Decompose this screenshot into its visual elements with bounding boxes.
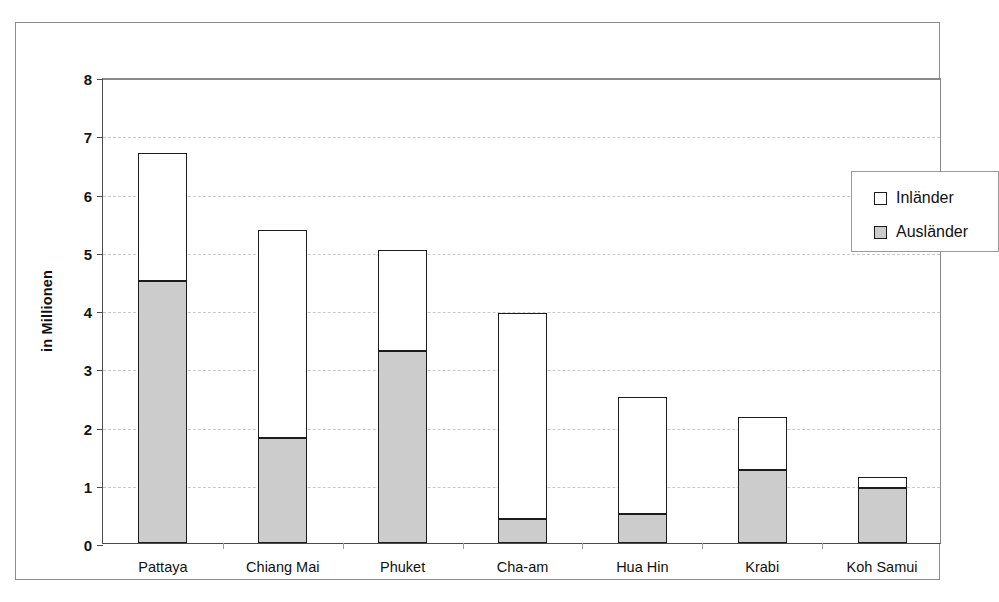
y-axis-tick [97, 196, 103, 197]
x-axis-label: Hua Hin [616, 560, 668, 575]
y-axis-tick-label: 0 [84, 538, 92, 553]
bar-koh-samui [858, 477, 907, 543]
bar-chiang-mai [258, 230, 307, 543]
y-axis-tick [97, 79, 103, 80]
bar-segment-auslaender [618, 514, 667, 543]
y-axis-title: in Millionen [39, 270, 55, 352]
bar-segment-inlaender [498, 313, 547, 519]
x-axis-tick [582, 543, 583, 549]
bar-segment-auslaender [498, 519, 547, 543]
x-axis-label: Krabi [745, 560, 779, 575]
bar-segment-auslaender [738, 470, 787, 543]
y-axis-tick [97, 254, 103, 255]
bar-cha-am [498, 313, 547, 543]
y-axis-tick [97, 545, 103, 546]
bar-segment-auslaender [858, 488, 907, 543]
gridline [103, 79, 940, 80]
gridline [103, 196, 940, 197]
plot-area: 012345678 PattayaChiang MaiPhuketCha-amH… [102, 78, 941, 544]
figure-frame: in Millionen 012345678 PattayaChiang Mai… [15, 22, 940, 580]
x-axis-label: Chiang Mai [246, 560, 319, 575]
y-axis-tick-label: 3 [84, 363, 92, 378]
bar-pattaya [138, 153, 187, 543]
bar-krabi [738, 417, 787, 543]
y-axis-tick [97, 429, 103, 430]
x-axis-label: Phuket [380, 560, 425, 575]
x-axis-tick [223, 543, 224, 549]
y-axis-tick-label: 1 [84, 479, 92, 494]
legend-label-auslaender: Ausländer [896, 224, 968, 240]
y-axis-tick-label: 7 [84, 130, 92, 145]
bar-segment-inlaender [378, 250, 427, 351]
y-axis-tick-label: 6 [84, 188, 92, 203]
bar-segment-auslaender [138, 281, 187, 543]
x-axis-label: Pattaya [138, 560, 187, 575]
bar-segment-inlaender [258, 230, 307, 439]
bar-segment-inlaender [738, 417, 787, 471]
y-axis-tick-label: 8 [84, 72, 92, 87]
x-axis-tick [822, 543, 823, 549]
chart-legend: Inländer Ausländer [851, 171, 999, 252]
bar-segment-auslaender [258, 438, 307, 543]
y-axis-tick-label: 2 [84, 421, 92, 436]
y-axis-tick [97, 312, 103, 313]
legend-item-auslaender: Ausländer [874, 218, 998, 246]
legend-item-inlaender: Inländer [874, 184, 998, 212]
y-axis-tick [97, 137, 103, 138]
legend-swatch-auslaender-icon [874, 226, 887, 239]
bar-segment-inlaender [138, 153, 187, 281]
y-axis-tick [97, 370, 103, 371]
x-axis-label: Koh Samui [847, 560, 918, 575]
x-axis-tick [343, 543, 344, 549]
x-axis-tick [702, 543, 703, 549]
x-axis-tick [463, 543, 464, 549]
bar-phuket [378, 250, 427, 543]
bar-segment-auslaender [378, 351, 427, 543]
y-axis-tick-label: 4 [84, 305, 92, 320]
x-axis-label: Cha-am [497, 560, 549, 575]
gridline [103, 137, 940, 138]
y-axis-tick-label: 5 [84, 246, 92, 261]
legend-label-inlaender: Inländer [896, 190, 954, 206]
gridline [103, 254, 940, 255]
bar-hua-hin [618, 397, 667, 543]
legend-swatch-inlaender-icon [874, 192, 887, 205]
bar-segment-inlaender [858, 477, 907, 487]
y-axis-tick [97, 487, 103, 488]
bar-segment-inlaender [618, 397, 667, 514]
